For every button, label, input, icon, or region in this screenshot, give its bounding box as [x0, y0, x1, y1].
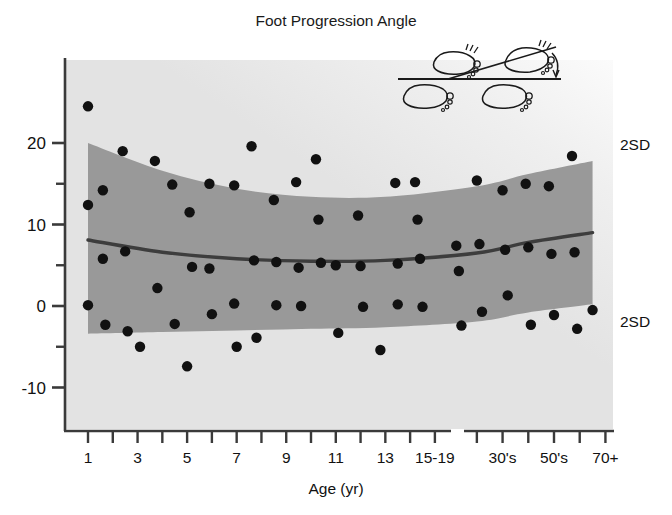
x-axis-tick-label: 5 [183, 449, 192, 466]
x-axis-ticks [88, 431, 605, 443]
data-point [229, 298, 239, 308]
y-axis-tick-label: 10 [27, 216, 46, 235]
data-point [231, 342, 241, 352]
y-axis-tick-label: 20 [27, 134, 46, 153]
data-point [316, 258, 326, 268]
data-point [269, 195, 279, 205]
data-point [150, 156, 160, 166]
data-point [311, 154, 321, 164]
data-point [98, 185, 108, 195]
data-point [472, 175, 482, 185]
data-point [100, 320, 110, 330]
data-point [271, 300, 281, 310]
data-point [170, 319, 180, 329]
x-axis-tick-labels: 13579111315-1930's50's70+ [84, 449, 619, 466]
data-point [293, 262, 303, 272]
data-point [474, 239, 484, 249]
data-point [549, 310, 559, 320]
data-point [503, 290, 513, 300]
x-axis-tick-label: 7 [232, 449, 241, 466]
page-title: Foot Progression Angle [255, 12, 416, 29]
chart-figure: Foot Progression Angle -1001020 135 [0, 0, 672, 515]
sd-lower-label: 2SD [620, 313, 650, 330]
data-point [167, 179, 177, 189]
data-point [83, 300, 93, 310]
x-axis-tick-label: 1 [84, 449, 93, 466]
data-point [120, 246, 130, 256]
data-point [249, 255, 259, 265]
data-point [83, 101, 93, 111]
data-point [204, 263, 214, 273]
data-point [135, 342, 145, 352]
data-point [271, 257, 281, 267]
data-point [331, 260, 341, 270]
x-axis-tick-label: 30's [489, 449, 517, 466]
data-point [451, 240, 461, 250]
data-point [296, 301, 306, 311]
data-point [456, 320, 466, 330]
x-axis-tick-label: 3 [133, 449, 142, 466]
x-axis-tick-label: 70+ [592, 449, 618, 466]
data-point [246, 141, 256, 151]
data-point [546, 249, 556, 259]
data-point [526, 320, 536, 330]
data-point [182, 361, 192, 371]
data-point [117, 146, 127, 156]
data-point [454, 266, 464, 276]
data-point [207, 309, 217, 319]
x-axis-tick-label: 11 [328, 449, 344, 466]
data-point [152, 283, 162, 293]
data-point [521, 179, 531, 189]
data-point [393, 258, 403, 268]
data-point [251, 333, 261, 343]
data-point [291, 177, 301, 187]
data-point [567, 151, 577, 161]
x-axis-tick-label: 50's [540, 449, 568, 466]
data-point [410, 177, 420, 187]
data-point [523, 242, 533, 252]
y-axis-tick-labels: -1001020 [21, 134, 46, 398]
data-point [544, 181, 554, 191]
data-point [477, 307, 487, 317]
x-axis-tick-label: 9 [282, 449, 291, 466]
y-axis-ticks [52, 143, 65, 388]
data-point [353, 210, 363, 220]
y-axis-tick-label: -10 [21, 379, 46, 398]
data-point [497, 185, 507, 195]
data-point [417, 302, 427, 312]
data-point [187, 262, 197, 272]
data-point [569, 247, 579, 257]
x-axis-title: Age (yr) [308, 480, 363, 497]
data-point [500, 245, 510, 255]
data-point [313, 214, 323, 224]
x-axis-tick-label: 15-19 [415, 449, 455, 466]
data-point [204, 179, 214, 189]
data-point [415, 254, 425, 264]
y-axis-tick-label: 0 [37, 297, 46, 316]
data-point [358, 302, 368, 312]
data-point [572, 324, 582, 334]
data-point [83, 200, 93, 210]
data-point [98, 254, 108, 264]
data-point [412, 214, 422, 224]
data-point [375, 345, 385, 355]
x-axis-tick-label: 13 [377, 449, 394, 466]
data-point [184, 207, 194, 217]
data-point [390, 178, 400, 188]
chart-svg: Foot Progression Angle -1001020 135 [0, 0, 672, 515]
data-point [393, 299, 403, 309]
data-point [333, 328, 343, 338]
data-point [587, 305, 597, 315]
data-point [229, 180, 239, 190]
data-point [355, 261, 365, 271]
sd-upper-label: 2SD [620, 136, 650, 153]
data-point [122, 326, 132, 336]
